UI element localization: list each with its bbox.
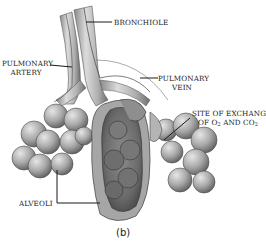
exchange-site-label-line2: OF O2 AND CO2 — [192, 118, 264, 129]
alveoli-diagram: BRONCHIOLE PULMONARY ARTERY PULMONARY VE… — [0, 0, 266, 247]
bronchiole-label: BRONCHIOLE — [114, 18, 168, 27]
pulmonary-artery-label: PULMONARY ARTERY — [2, 59, 50, 77]
pulmonary-artery-label-line1: PULMONARY — [2, 59, 50, 68]
figure-caption: (b) — [116, 227, 130, 238]
exchange-site-label-line1: SITE OF EXCHANGE — [192, 109, 264, 118]
left-alveolar-cluster — [12, 104, 93, 178]
alveoli-label: ALVEOLI — [19, 199, 53, 208]
pulmonary-vein-label-line2: VEIN — [158, 83, 206, 92]
pulmonary-artery-label-line2: ARTERY — [2, 68, 50, 77]
exchange-site-label: SITE OF EXCHANGE OF O2 AND CO2 — [192, 109, 264, 129]
central-alveolar-sac — [92, 99, 150, 220]
pulmonary-vein-label-line1: PULMONARY — [158, 74, 206, 83]
pulmonary-vein-label: PULMONARY VEIN — [158, 74, 206, 92]
